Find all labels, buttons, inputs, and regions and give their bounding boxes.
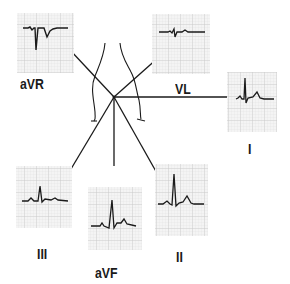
label-I: I: [248, 140, 251, 157]
label-aVF: aVF: [95, 264, 118, 281]
axis-III: [68, 97, 114, 174]
hexaxial-diagram: [0, 0, 290, 284]
panel-I: [227, 72, 277, 132]
axis-center: [113, 96, 116, 99]
panel-aVF: [88, 187, 142, 250]
panel-VL: [152, 14, 210, 74]
label-II: II: [176, 248, 183, 265]
panel-aVR: [17, 13, 74, 73]
label-VL: VL: [175, 80, 191, 97]
label-aVR: aVR: [20, 75, 44, 92]
panel-III: [16, 166, 72, 228]
axis-II: [114, 97, 158, 175]
panel-II: [155, 164, 208, 236]
label-III: III: [37, 245, 47, 262]
